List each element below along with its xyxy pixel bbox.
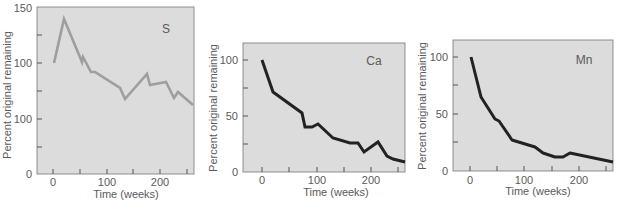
ytick-label: 150 — [14, 2, 32, 14]
xtick-label: 200 — [570, 174, 588, 186]
ytick-label: 100 — [220, 54, 238, 66]
xtick-label: 0 — [50, 176, 56, 188]
ytick-label: 50 — [226, 110, 238, 122]
xtick-label: 200 — [151, 176, 169, 188]
element-label-s: S — [162, 22, 170, 36]
y-axis-title: Percent original remaining — [416, 42, 428, 170]
ytick-label: 0 — [442, 165, 448, 177]
ytick-label: 0 — [232, 166, 238, 178]
ytick-label: 100 — [14, 113, 32, 125]
x-axis-title: Time (weeks) — [93, 188, 159, 200]
panel-ca: 100 50 0 0 100 200 Time (weeks) Percent … — [207, 43, 405, 198]
ytick-label: 100 — [430, 51, 448, 63]
ytick-label: 100 — [14, 57, 32, 69]
ytick-label: 0 — [26, 168, 32, 180]
y-axis-title: Percent original remaining — [1, 31, 13, 159]
xtick-label: 200 — [362, 174, 380, 186]
y-axis-title: Percent original remaining — [207, 44, 219, 172]
xtick-label: 0 — [467, 174, 473, 186]
element-label-mn: Mn — [576, 53, 593, 67]
xtick-label: 100 — [308, 174, 326, 186]
ytick-label: 50 — [436, 108, 448, 120]
panel-mn: 100 50 0 0 100 200 Time (weeks) Percent … — [416, 40, 613, 197]
xtick-label: 100 — [98, 176, 116, 188]
element-label-ca: Ca — [366, 54, 382, 68]
figure: 150 100 100 0 0 100 200 Time (weeks) Per… — [0, 0, 617, 206]
x-axis-title: Time (weeks) — [303, 186, 369, 198]
panel-s: 150 100 100 0 0 100 200 Time (weeks) Per… — [1, 2, 194, 200]
x-axis-title: Time (weeks) — [505, 185, 571, 197]
xtick-label: 0 — [259, 174, 265, 186]
